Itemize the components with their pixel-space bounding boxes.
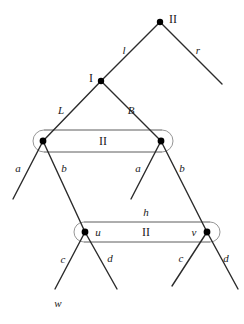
edge-label-q-a: a bbox=[135, 163, 141, 174]
edge-label-I-B: B bbox=[128, 105, 135, 116]
edge-label-v-c: c bbox=[179, 253, 184, 264]
lower-capsule-label: II bbox=[142, 226, 150, 238]
upper-capsule-label: II bbox=[99, 135, 107, 147]
edge-u-c bbox=[55, 232, 85, 289]
edge-v-c bbox=[172, 232, 207, 286]
node-v[interactable] bbox=[204, 229, 211, 236]
annotation-capsule-label-h: h bbox=[143, 207, 149, 218]
edge-root-r bbox=[160, 22, 222, 84]
edge-label-u-d: d bbox=[107, 253, 113, 264]
edge-label-I-L: L bbox=[58, 105, 64, 116]
edge-label-p-a: a bbox=[15, 163, 21, 174]
edge-label-q-b: b bbox=[179, 163, 185, 174]
edge-label-root-l: l bbox=[122, 45, 125, 56]
node-u[interactable] bbox=[82, 229, 89, 236]
node-q[interactable] bbox=[158, 138, 165, 145]
node-root[interactable] bbox=[157, 19, 163, 25]
edge-root-l bbox=[101, 22, 160, 81]
edge-label-u-c: c bbox=[61, 254, 66, 265]
edge-label-root-r: r bbox=[196, 45, 200, 56]
node-I[interactable] bbox=[98, 78, 104, 84]
node-p[interactable] bbox=[40, 138, 47, 145]
edge-label-p-b: b bbox=[61, 163, 67, 174]
annotation-node-label-I: I bbox=[89, 72, 93, 84]
edge-label-v-d: d bbox=[223, 253, 229, 264]
annotation-node-label-v: v bbox=[192, 227, 197, 238]
edge-q-b bbox=[161, 141, 207, 232]
edge-p-b bbox=[43, 141, 85, 232]
annotation-node-label-u: u bbox=[95, 227, 101, 238]
tree-diagram-figure: lrLBababcdcdIIIIIIIhuvw bbox=[0, 0, 244, 324]
annotation-node-label-root: II bbox=[169, 13, 177, 25]
edge-I-L bbox=[43, 81, 101, 141]
annotation-leaf-label-w: w bbox=[54, 298, 61, 309]
